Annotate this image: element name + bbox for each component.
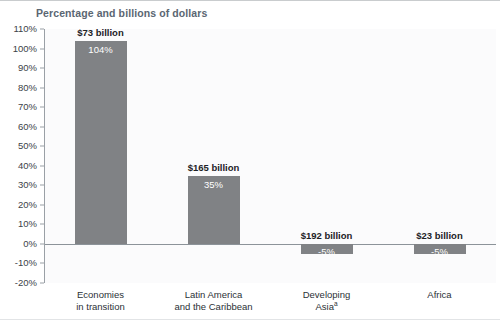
chart-subtitle: Percentage and billions of dollars [36,7,207,19]
bar-percent-label: 104% [75,45,127,55]
bar[interactable] [75,41,127,244]
bar-group[interactable]: $165 billion35% [188,29,240,283]
x-axis-category-line: Asiaa [252,301,402,313]
bar-percent-label: -5% [414,247,466,257]
bar-percent-label: -5% [301,247,353,257]
bar-amount-label: $165 billion [114,163,314,173]
bar-group[interactable]: $73 billion104% [75,29,127,283]
bar-group[interactable]: $23 billion-5% [414,29,466,283]
footnote-marker: a [334,299,338,306]
bar-percent-label: 35% [188,180,240,190]
bar-group[interactable]: $192 billion-5% [301,29,353,283]
x-axis-category-label: Africa [365,289,500,301]
x-axis-category-line: Africa [365,289,500,301]
bar-amount-label: $73 billion [1,28,201,38]
bars-layer: $73 billion104%$165 billion35%$192 billi… [44,29,496,283]
chart-figure: Percentage and billions of dollars 110%1… [0,0,500,320]
bar-amount-label: $23 billion [340,231,500,241]
